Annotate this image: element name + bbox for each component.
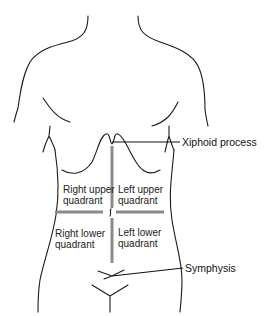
ruq-label: Right upper <box>63 184 115 195</box>
luq-label-2: quadrant <box>118 195 158 206</box>
luq-label-line2: quadrant <box>118 195 158 206</box>
quadrant-labels: Right upper quadrant Left upper quadrant… <box>55 184 164 250</box>
umbilicus <box>110 209 111 216</box>
llq-label-line1: Left lower <box>118 227 162 238</box>
abdominal-quadrants-diagram: Right upper quadrant Left upper quadrant… <box>0 0 268 316</box>
left-arm-inner <box>165 126 174 152</box>
symphysis-callout-text: Symphysis <box>185 262 236 274</box>
symphysis-callout: Symphysis <box>185 262 236 274</box>
llq-label-line2: quadrant <box>118 238 158 249</box>
right-arm-inner <box>43 126 55 152</box>
symphysis-leader-line <box>112 268 183 276</box>
left-shoulder-outline <box>14 16 88 122</box>
xiphoid-callout-text: Xiphoid process <box>182 136 257 148</box>
luq-label: Left upper <box>118 184 164 195</box>
llq-label: Left lower <box>118 227 162 238</box>
luq-label-line1: Left upper <box>118 184 164 195</box>
callouts: Xiphoid process Symphysis <box>112 136 257 276</box>
rlq-label-line1: Right lower <box>55 228 106 239</box>
ruq-label-2: quadrant <box>63 195 103 206</box>
ruq-label-line2: quadrant <box>63 195 103 206</box>
xiphoid-callout: Xiphoid process <box>182 136 257 148</box>
left-torso-side <box>170 150 182 312</box>
rlq-label-2: quadrant <box>55 239 95 250</box>
left-pectoral-curve <box>152 102 178 126</box>
rlq-label: Right lower <box>55 228 106 239</box>
right-pectoral-curve <box>43 98 70 122</box>
llq-label-2: quadrant <box>118 238 158 249</box>
pubic-symphysis <box>98 270 124 279</box>
groin-lines <box>92 285 128 312</box>
ruq-label-line1: Right upper <box>63 184 115 195</box>
rlq-label-line2: quadrant <box>55 239 95 250</box>
right-shoulder-outline <box>138 16 208 126</box>
